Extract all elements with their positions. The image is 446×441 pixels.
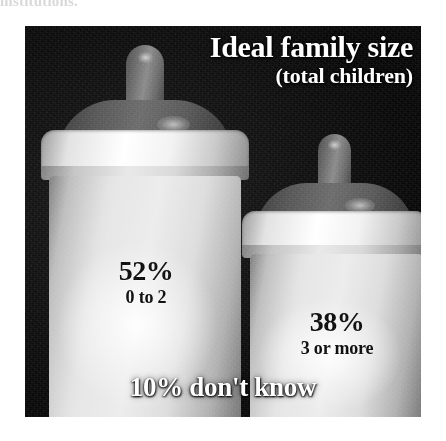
chart-subtitle: (total children) — [210, 65, 413, 87]
clipped-article-text: institutions. — [0, 0, 200, 7]
chart-title-block: Ideal family size (total children) — [210, 32, 413, 87]
stat-zero-to-two: 52% 0 to 2 — [87, 257, 205, 306]
page-title: Ideal family size — [210, 32, 413, 63]
stat-percent: 52% — [87, 257, 205, 285]
stat-percent: 38% — [273, 308, 401, 336]
stat-description: 0 to 2 — [87, 288, 205, 306]
infographic-panel: 52% 0 to 2 38% 3 or more Ideal family si… — [25, 26, 421, 417]
stat-three-or-more: 38% 3 or more — [273, 308, 401, 357]
dont-know-note: 10% don't know — [25, 372, 421, 403]
teat-highlight — [138, 52, 153, 63]
stat-description: 3 or more — [273, 339, 401, 357]
teat-highlight — [328, 140, 341, 150]
